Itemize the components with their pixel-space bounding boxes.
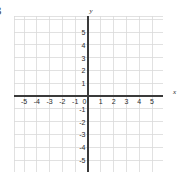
axis-lines (14, 16, 163, 172)
x-tick-label-neg3: -3 (46, 98, 52, 105)
x-tick-label-2: 2 (112, 98, 116, 105)
x-tick-label-3: 3 (124, 98, 128, 105)
y-axis-name-label: y (90, 8, 93, 15)
y-tick-label-3: 3 (82, 54, 86, 61)
y-tick-label-1: 1 (82, 80, 86, 87)
y-tick-label-4: 4 (82, 41, 86, 48)
x-tick-label-neg2: -2 (59, 98, 65, 105)
y-tick-label-2: 2 (82, 67, 86, 74)
y-tick-label-neg5: -5 (79, 157, 85, 164)
x-tick-label-neg4: -4 (34, 98, 40, 105)
coordinate-plane-figure: 3 -5-4-3-2-101234554321-1-2-3-4-5xy (0, 0, 180, 184)
x-axis-name-label: x (173, 89, 176, 96)
grid-svg (14, 16, 163, 172)
y-tick-label-neg3: -3 (79, 131, 85, 138)
y-tick-label-neg2: -2 (79, 118, 85, 125)
y-tick-label-neg1: -1 (79, 105, 85, 112)
y-tick-label-5: 5 (82, 29, 86, 36)
x-tick-label-neg1: -1 (72, 98, 78, 105)
x-tick-label-1: 1 (99, 98, 103, 105)
graph-grid-area (14, 16, 163, 172)
x-tick-label-4: 4 (137, 98, 141, 105)
x-tick-label-neg5: -5 (21, 98, 27, 105)
figure-number-label: 3 (0, 4, 2, 17)
x-tick-label-0: 0 (83, 98, 87, 105)
y-tick-label-neg4: -4 (79, 144, 85, 151)
x-tick-label-5: 5 (150, 98, 154, 105)
